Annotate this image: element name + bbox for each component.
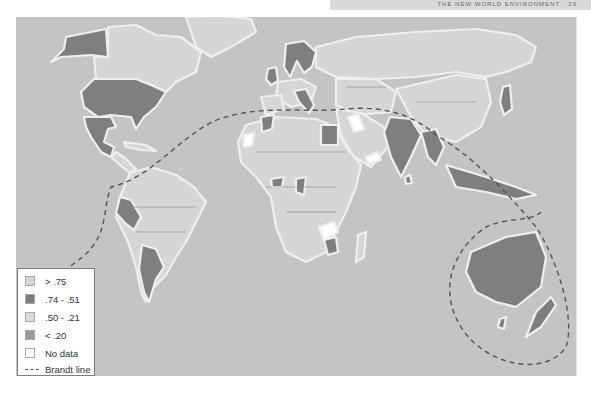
- region-tasmania: [498, 317, 506, 329]
- legend-label: No data: [45, 348, 78, 359]
- region-egypt: [321, 125, 338, 145]
- legend-item-lt-20: < .20: [25, 329, 66, 341]
- region-western-sahara: [244, 133, 254, 147]
- world-map: [16, 17, 577, 376]
- legend-label: > .75: [45, 276, 66, 287]
- swatch-no-data-icon: [25, 348, 35, 358]
- region-russia: [316, 29, 536, 79]
- legend-item-brandt-line: Brandt line: [25, 363, 90, 375]
- region-madagascar: [356, 232, 366, 262]
- swatch-74-51-icon: [25, 294, 35, 304]
- region-iberia: [261, 95, 284, 115]
- legend-label: .74 - .51: [45, 294, 80, 305]
- legend-item-50-21: .50 - .21: [25, 311, 80, 323]
- world-map-canvas: [16, 17, 576, 376]
- running-header-text: THE NEW WORLD ENVIRONMENT · 29: [437, 0, 577, 8]
- region-scandinavia: [284, 41, 316, 77]
- legend-item-gt-75: > .75: [25, 275, 66, 287]
- legend-label: < .20: [45, 330, 66, 341]
- legend-label: Brandt line: [45, 364, 90, 375]
- region-niger-mali: [271, 177, 284, 187]
- swatch-lt-20-icon: [25, 330, 35, 340]
- region-new-zealand: [526, 297, 556, 337]
- region-indonesia: [446, 165, 536, 199]
- region-caribbean: [124, 142, 156, 151]
- swatch-gt-75-icon: [25, 276, 35, 286]
- region-india: [384, 117, 421, 177]
- region-sri-lanka: [405, 175, 412, 184]
- region-japan: [500, 85, 512, 115]
- region-cameroon: [296, 177, 306, 195]
- region-morocco: [261, 115, 274, 132]
- dashed-line-icon: [25, 369, 39, 370]
- region-mexico: [84, 117, 116, 157]
- running-header: THE NEW WORLD ENVIRONMENT · 29: [330, 0, 591, 10]
- region-central-america: [111, 152, 136, 173]
- map-legend: > .75 .74 - .51 .50 - .21 < .20 No data …: [17, 268, 95, 376]
- region-south-america: [116, 167, 206, 302]
- region-australia: [466, 232, 546, 307]
- legend-item-74-51: .74 - .51: [25, 293, 80, 305]
- region-united-kingdom: [266, 67, 278, 85]
- legend-label: .50 - .21: [45, 312, 80, 323]
- swatch-50-21-icon: [25, 312, 35, 322]
- legend-item-no-data: No data: [25, 347, 78, 359]
